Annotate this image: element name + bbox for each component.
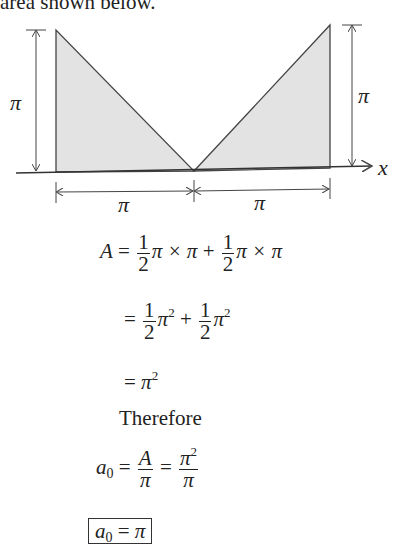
therefore-text: Therefore bbox=[119, 406, 202, 431]
area-figure bbox=[0, 0, 394, 230]
right-height-label: π bbox=[358, 83, 369, 109]
area-equation-line-3: = π2 bbox=[124, 370, 158, 395]
right-triangle bbox=[194, 25, 330, 171]
a0-equation: a0 = Aπ = π2π bbox=[96, 448, 200, 491]
x-axis-label: x bbox=[378, 155, 388, 181]
area-equation-line-1: A = 12π × π + 12π × π bbox=[100, 232, 282, 275]
left-width-label: π bbox=[118, 192, 129, 218]
area-equation-line-2: = 12π2 + 12π2 bbox=[124, 300, 231, 343]
left-triangle bbox=[56, 30, 194, 172]
left-height-label: π bbox=[10, 90, 21, 116]
right-width-label: π bbox=[254, 190, 265, 216]
boxed-result: a0 = π bbox=[88, 518, 152, 544]
